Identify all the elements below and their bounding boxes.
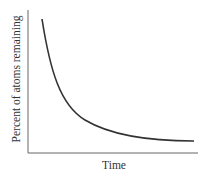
y-axis-label: Percent of atoms remaining — [10, 16, 22, 143]
x-axis-label: Time — [102, 159, 126, 171]
decay-curve — [42, 19, 194, 141]
chart-plot — [0, 0, 208, 179]
chart-canvas: Percent of atoms remaining Time — [0, 0, 208, 179]
